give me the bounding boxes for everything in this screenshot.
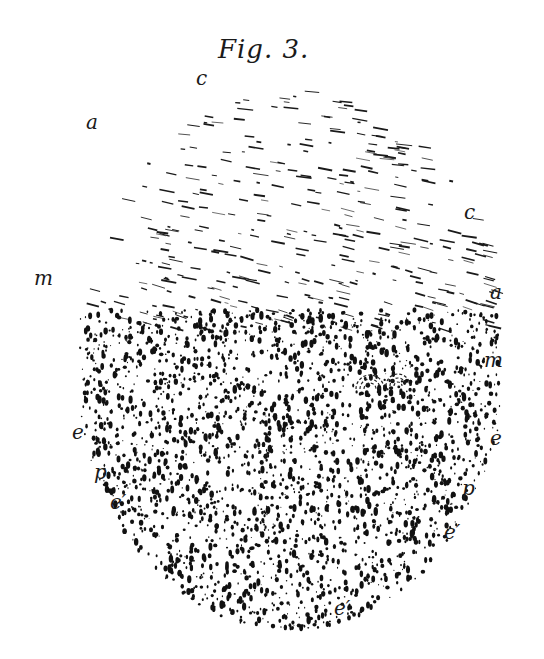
label-m-right: m <box>484 350 503 370</box>
label-e-prime-left: e′ <box>110 492 126 512</box>
label-e-left: e <box>72 422 84 442</box>
label-e-right: e <box>490 428 502 448</box>
label-m-left: m <box>34 268 53 288</box>
figure-3-illustration: Fig. 3. cacmameeppe′e′e′ <box>0 0 544 659</box>
label-c-right: c <box>464 202 475 222</box>
label-e-prime-bottom: e′ <box>334 598 350 618</box>
label-a-left: a <box>86 112 98 132</box>
figure-title: Fig. 3. <box>218 34 309 64</box>
label-p-left: p <box>94 462 107 482</box>
label-c-top: c <box>196 68 207 88</box>
tissue-section-drawing <box>0 0 544 659</box>
label-p-right: p <box>462 478 475 498</box>
label-e-prime-right: e′ <box>444 522 460 542</box>
label-a-right: a <box>490 282 502 302</box>
